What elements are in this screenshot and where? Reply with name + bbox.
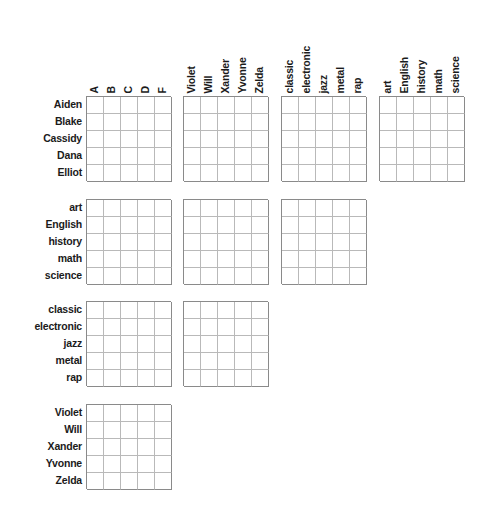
- grid-cell[interactable]: [252, 336, 269, 353]
- grid-cell[interactable]: [235, 268, 252, 285]
- grid-cell[interactable]: [104, 319, 121, 336]
- grid-cell[interactable]: [299, 217, 316, 234]
- grid-cell[interactable]: [184, 114, 201, 131]
- grid-cell[interactable]: [121, 336, 138, 353]
- grid-cell[interactable]: [299, 268, 316, 285]
- grid-cell[interactable]: [397, 165, 414, 182]
- grid-cell[interactable]: [316, 217, 333, 234]
- grid-cell[interactable]: [201, 234, 218, 251]
- grid-cell[interactable]: [138, 131, 155, 148]
- grid-cell[interactable]: [87, 251, 104, 268]
- grid-cell[interactable]: [397, 148, 414, 165]
- grid-cell[interactable]: [138, 165, 155, 182]
- grid-cell[interactable]: [350, 251, 367, 268]
- grid-cell[interactable]: [252, 234, 269, 251]
- grid-cell[interactable]: [155, 302, 172, 319]
- grid-cell[interactable]: [121, 234, 138, 251]
- grid-cell[interactable]: [431, 97, 448, 114]
- grid-cell[interactable]: [282, 148, 299, 165]
- grid-cell[interactable]: [87, 370, 104, 387]
- grid-cell[interactable]: [155, 234, 172, 251]
- grid-cell[interactable]: [218, 251, 235, 268]
- grid-cell[interactable]: [201, 251, 218, 268]
- grid-cell[interactable]: [380, 97, 397, 114]
- grid-cell[interactable]: [184, 217, 201, 234]
- grid-cell[interactable]: [138, 405, 155, 422]
- grid-cell[interactable]: [121, 370, 138, 387]
- grid-cell[interactable]: [87, 473, 104, 490]
- grid-cell[interactable]: [333, 114, 350, 131]
- grid-cell[interactable]: [299, 114, 316, 131]
- grid-cell[interactable]: [87, 422, 104, 439]
- grid-cell[interactable]: [155, 370, 172, 387]
- grid-cell[interactable]: [155, 217, 172, 234]
- grid-cell[interactable]: [235, 353, 252, 370]
- grid-cell[interactable]: [121, 439, 138, 456]
- grid-cell[interactable]: [155, 131, 172, 148]
- grid-cell[interactable]: [121, 302, 138, 319]
- grid-cell[interactable]: [87, 97, 104, 114]
- grid-cell[interactable]: [235, 200, 252, 217]
- grid-cell[interactable]: [104, 251, 121, 268]
- grid-cell[interactable]: [252, 200, 269, 217]
- grid-cell[interactable]: [431, 114, 448, 131]
- grid-cell[interactable]: [397, 114, 414, 131]
- grid-cell[interactable]: [397, 131, 414, 148]
- grid-cell[interactable]: [138, 336, 155, 353]
- grid-cell[interactable]: [138, 114, 155, 131]
- grid-cell[interactable]: [218, 319, 235, 336]
- grid-cell[interactable]: [235, 148, 252, 165]
- grid-cell[interactable]: [201, 336, 218, 353]
- grid-cell[interactable]: [121, 456, 138, 473]
- grid-cell[interactable]: [138, 422, 155, 439]
- grid-cell[interactable]: [121, 405, 138, 422]
- grid-cell[interactable]: [87, 456, 104, 473]
- grid-cell[interactable]: [201, 165, 218, 182]
- grid-cell[interactable]: [252, 251, 269, 268]
- grid-cell[interactable]: [104, 148, 121, 165]
- grid-cell[interactable]: [252, 353, 269, 370]
- grid-cell[interactable]: [184, 302, 201, 319]
- grid-cell[interactable]: [218, 148, 235, 165]
- grid-cell[interactable]: [138, 217, 155, 234]
- grid-cell[interactable]: [155, 439, 172, 456]
- grid-cell[interactable]: [121, 131, 138, 148]
- grid-cell[interactable]: [201, 148, 218, 165]
- grid-cell[interactable]: [104, 114, 121, 131]
- grid-cell[interactable]: [299, 200, 316, 217]
- grid-cell[interactable]: [333, 268, 350, 285]
- grid-cell[interactable]: [235, 336, 252, 353]
- grid-cell[interactable]: [218, 114, 235, 131]
- grid-cell[interactable]: [184, 353, 201, 370]
- grid-cell[interactable]: [333, 217, 350, 234]
- grid-cell[interactable]: [184, 268, 201, 285]
- grid-cell[interactable]: [350, 148, 367, 165]
- grid-cell[interactable]: [201, 200, 218, 217]
- grid-cell[interactable]: [184, 251, 201, 268]
- grid-cell[interactable]: [235, 234, 252, 251]
- grid-cell[interactable]: [155, 251, 172, 268]
- grid-cell[interactable]: [121, 268, 138, 285]
- grid-cell[interactable]: [414, 165, 431, 182]
- grid-cell[interactable]: [155, 422, 172, 439]
- grid-cell[interactable]: [138, 353, 155, 370]
- grid-cell[interactable]: [218, 268, 235, 285]
- grid-cell[interactable]: [252, 302, 269, 319]
- grid-cell[interactable]: [218, 200, 235, 217]
- grid-cell[interactable]: [218, 234, 235, 251]
- grid-cell[interactable]: [87, 319, 104, 336]
- grid-cell[interactable]: [121, 200, 138, 217]
- grid-cell[interactable]: [184, 200, 201, 217]
- grid-cell[interactable]: [138, 370, 155, 387]
- grid-cell[interactable]: [350, 114, 367, 131]
- grid-cell[interactable]: [380, 114, 397, 131]
- grid-cell[interactable]: [448, 148, 465, 165]
- grid-cell[interactable]: [235, 302, 252, 319]
- grid-cell[interactable]: [184, 234, 201, 251]
- grid-cell[interactable]: [316, 97, 333, 114]
- grid-cell[interactable]: [87, 131, 104, 148]
- grid-cell[interactable]: [252, 319, 269, 336]
- grid-cell[interactable]: [201, 302, 218, 319]
- grid-cell[interactable]: [431, 131, 448, 148]
- grid-cell[interactable]: [316, 200, 333, 217]
